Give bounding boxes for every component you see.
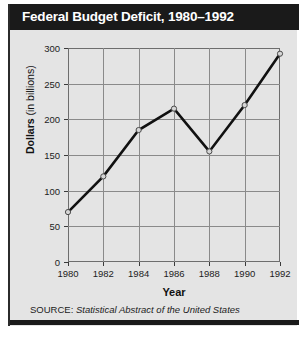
data-point-marker xyxy=(65,209,70,214)
x-tick-label: 1984 xyxy=(128,268,149,279)
x-tick-mark xyxy=(68,262,69,266)
plot-wrapper: 0501001502002503001980198219841986198819… xyxy=(68,48,280,262)
source-note: SOURCE: Statistical Abstract of the Unit… xyxy=(30,304,240,315)
x-tick-mark xyxy=(209,262,210,266)
x-tick-mark xyxy=(174,262,175,266)
x-tick-label: 1982 xyxy=(93,268,114,279)
x-tick-label: 1986 xyxy=(163,268,184,279)
chart-title-bar: Federal Budget Deficit, 1980–1992 xyxy=(10,4,299,30)
y-axis-title-bold: Dollars xyxy=(24,118,36,154)
data-point-marker xyxy=(136,127,141,132)
deficit-line-series xyxy=(68,48,280,262)
y-tick-label: 250 xyxy=(44,78,60,89)
x-tick-mark xyxy=(245,262,246,266)
y-tick-label: 300 xyxy=(44,43,60,54)
x-tick-label: 1992 xyxy=(269,268,290,279)
y-tick-label: 0 xyxy=(55,257,60,268)
series-polyline xyxy=(68,54,280,212)
x-axis-title: Year xyxy=(68,286,280,298)
y-tick-label: 100 xyxy=(44,185,60,196)
source-title: Statistical Abstract of the United State… xyxy=(76,304,240,315)
data-point-marker xyxy=(277,51,282,56)
data-point-marker xyxy=(101,174,106,179)
data-point-marker xyxy=(171,106,176,111)
x-tick-label: 1988 xyxy=(199,268,220,279)
series-markers xyxy=(65,51,282,215)
x-tick-mark xyxy=(280,262,281,266)
y-axis-title-rest: (in billions) xyxy=(24,65,36,118)
y-tick-label: 150 xyxy=(44,150,60,161)
y-tick-label: 200 xyxy=(44,114,60,125)
x-tick-mark xyxy=(103,262,104,266)
data-point-marker xyxy=(242,102,247,107)
y-axis-title: Dollars (in billions) xyxy=(24,65,36,154)
bottom-rule xyxy=(10,320,299,325)
chart-figure: Federal Budget Deficit, 1980–1992 Dollar… xyxy=(8,4,297,326)
y-tick-label: 50 xyxy=(49,221,60,232)
x-tick-label: 1990 xyxy=(234,268,255,279)
source-label: SOURCE: xyxy=(30,304,73,315)
data-point-marker xyxy=(207,149,212,154)
x-tick-mark xyxy=(139,262,140,266)
page-title: Federal Budget Deficit, 1980–1992 xyxy=(22,9,234,24)
x-tick-label: 1980 xyxy=(57,268,78,279)
